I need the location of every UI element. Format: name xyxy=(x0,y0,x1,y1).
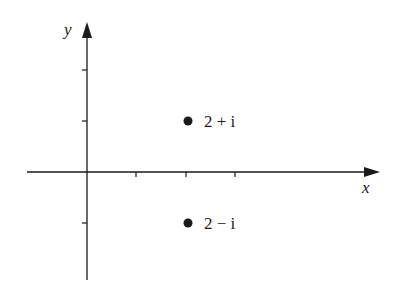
complex-plane-plot: x y 2 + i 2 − i xyxy=(0,0,395,290)
x-ticks xyxy=(136,172,235,177)
point-2-plus-i-label: 2 + i xyxy=(204,112,236,131)
y-axis-label: y xyxy=(62,20,72,39)
y-ticks xyxy=(82,70,87,223)
y-axis-arrow-icon xyxy=(82,22,92,38)
point-2-minus-i xyxy=(184,219,193,228)
point-2-plus-i xyxy=(184,117,193,126)
x-axis-arrow-icon xyxy=(364,167,380,177)
point-2-minus-i-label: 2 − i xyxy=(204,214,236,233)
x-axis-label: x xyxy=(361,178,370,197)
